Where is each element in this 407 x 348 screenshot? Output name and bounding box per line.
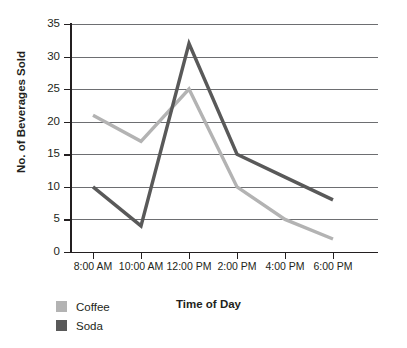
x-axis-tick-label: 8:00 AM	[74, 261, 113, 272]
y-axis-tick-label: 0	[36, 246, 60, 258]
x-axis-tick	[237, 253, 238, 259]
y-axis-tick	[64, 252, 70, 253]
legend-item-coffee: Coffee	[56, 297, 110, 316]
legend-label-coffee: Coffee	[76, 301, 110, 313]
legend-swatch-coffee	[56, 301, 67, 312]
y-axis-tick-label: 35	[36, 18, 60, 30]
y-axis-tick-label: 20	[36, 116, 60, 128]
legend-item-soda: Soda	[56, 316, 110, 335]
x-axis-tick	[333, 253, 334, 259]
x-axis-tick	[93, 253, 94, 259]
series-lines	[71, 24, 378, 252]
y-axis-tick-label: 25	[36, 83, 60, 95]
chart-legend: Coffee Soda	[56, 297, 110, 335]
x-axis-tick-label: 6:00 PM	[313, 261, 352, 272]
x-axis-tick-label: 2:00 PM	[217, 261, 256, 272]
x-axis-tick-label: 12:00 PM	[167, 261, 212, 272]
y-axis-tick	[64, 57, 70, 58]
legend-swatch-soda	[56, 320, 67, 331]
x-axis-tick	[285, 253, 286, 259]
beverages-sold-line-chart: 05101520253035 No. of Beverages Sold 8:0…	[0, 0, 407, 348]
y-axis-tick-label: 15	[36, 148, 60, 160]
x-axis-tick	[141, 253, 142, 259]
y-axis-tick-label: 10	[36, 181, 60, 193]
x-axis-tick-label: 10:00 AM	[119, 261, 163, 272]
plot-area	[71, 24, 378, 252]
x-axis-tick	[189, 253, 190, 259]
y-axis-tick	[64, 122, 70, 123]
y-axis-tick-label: 5	[36, 213, 60, 225]
x-axis-line	[70, 252, 378, 254]
y-axis-tick	[64, 187, 70, 188]
y-axis-tick-label: 30	[36, 51, 60, 63]
y-axis-tick	[64, 154, 70, 155]
y-axis-tick	[64, 89, 70, 90]
y-axis-line	[70, 23, 72, 253]
legend-label-soda: Soda	[76, 320, 103, 332]
y-axis-tick-labels: 05101520253035	[32, 0, 60, 348]
y-axis-title: No. of Beverages Sold	[15, 37, 27, 187]
y-axis-tick	[64, 24, 70, 25]
x-axis-tick-label: 4:00 PM	[265, 261, 304, 272]
y-axis-tick	[64, 219, 70, 220]
